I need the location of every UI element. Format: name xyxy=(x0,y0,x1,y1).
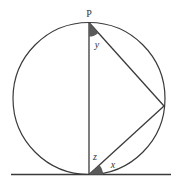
label-p: P xyxy=(86,8,92,19)
label-z: z xyxy=(92,151,97,162)
angle-x-shading xyxy=(89,165,103,174)
circle-tangent-diagram: P y z x xyxy=(0,0,179,190)
chord-p-to-right xyxy=(89,23,164,107)
label-x: x xyxy=(110,159,116,170)
label-y: y xyxy=(94,39,100,50)
angle-y-shading xyxy=(89,23,98,37)
